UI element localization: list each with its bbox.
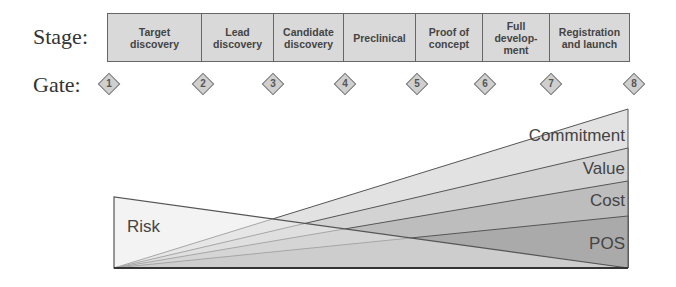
- risk-label: Risk: [127, 217, 161, 236]
- commitment-risk-chart: Risk Commitment Value Cost POS: [0, 0, 676, 287]
- pos-label: POS: [589, 234, 625, 253]
- commitment-label: Commitment: [529, 126, 626, 145]
- cost-label: Cost: [590, 191, 625, 210]
- value-label: Value: [583, 159, 625, 178]
